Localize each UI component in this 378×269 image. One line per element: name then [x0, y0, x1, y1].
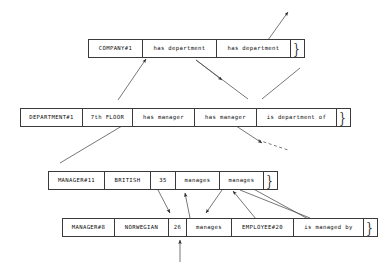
edge-has-department-2-up [268, 12, 288, 40]
continuation-brace-icon: } [266, 173, 273, 188]
edge-has-department-2-down-arrow [196, 60, 222, 80]
cell-manager-age[interactable]: 35 [151, 172, 176, 189]
edge-has-department-2-down [196, 60, 248, 99]
cell-manager-nationality[interactable]: NORWEGIAN [115, 219, 169, 236]
cell-manages-1[interactable]: manages [187, 219, 231, 236]
continuation-brace-icon: } [366, 220, 373, 235]
cell-department-continuation: } [337, 109, 350, 126]
cell-department-floor[interactable]: 7th FLOOR [83, 109, 133, 126]
cell-is-managed-by[interactable]: is managed by [294, 219, 364, 236]
record-company[interactable]: COMPANY#1 has department has department … [88, 39, 305, 58]
edge-is-department-of-up [262, 68, 300, 99]
edge-manager-11-tail-down [240, 190, 310, 218]
cell-has-manager-1[interactable]: has manager [133, 109, 195, 126]
edge-employee-to-manages-2 [233, 191, 256, 219]
cell-company-id[interactable]: COMPANY#1 [89, 40, 143, 57]
cell-manager-nationality[interactable]: BRITISH [105, 172, 151, 189]
cell-is-department-of[interactable]: is department of [257, 109, 337, 126]
continuation-brace-icon: } [339, 110, 346, 125]
cell-manager-id[interactable]: MANAGER#8 [63, 219, 115, 236]
cell-has-department-2[interactable]: has department [217, 40, 291, 57]
cell-manages-2[interactable]: manages [220, 172, 264, 189]
edge-manages-1-down [158, 190, 170, 213]
edge-has-manager-2-down-dashed [258, 140, 288, 150]
record-manager-11[interactable]: MANAGER#11 BRITISH 35 manages manages } [48, 171, 278, 190]
cell-company-continuation: } [291, 40, 304, 57]
record-employee[interactable]: EMPLOYEE#20 is managed by } [231, 218, 378, 237]
cell-manager-continuation: } [264, 172, 277, 189]
cell-manager-age[interactable]: 26 [169, 219, 187, 236]
cell-manager-id[interactable]: MANAGER#11 [49, 172, 105, 189]
edge-department-to-has-department-1 [118, 59, 146, 100]
record-manager-8[interactable]: MANAGER#8 NORWEGIAN 26 manages } [62, 218, 239, 237]
cell-manages-1[interactable]: manages [176, 172, 220, 189]
cell-employee-id[interactable]: EMPLOYEE#20 [232, 219, 294, 236]
edge-manages-2-down-left [206, 190, 222, 213]
edge-is-managed-by-up [248, 186, 310, 220]
cell-department-id[interactable]: DEPARTMENT#1 [21, 109, 83, 126]
cell-employee-continuation: } [364, 219, 377, 236]
continuation-brace-icon: } [293, 41, 300, 56]
record-department[interactable]: DEPARTMENT#1 7th FLOOR has manager has m… [20, 108, 351, 127]
cell-has-manager-2[interactable]: has manager [195, 109, 257, 126]
cell-has-department-1[interactable]: has department [143, 40, 217, 57]
